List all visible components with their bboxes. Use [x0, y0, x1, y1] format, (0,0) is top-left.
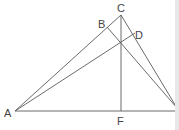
segment-ad	[15, 33, 135, 111]
label-c: C	[117, 2, 125, 14]
label-a: A	[4, 107, 12, 119]
label-f: F	[117, 115, 124, 127]
segment-ce	[121, 15, 177, 108]
label-d: D	[135, 29, 143, 41]
label-b: B	[98, 18, 105, 30]
triangle-diagram: C B D A F	[0, 0, 179, 130]
page-edge	[175, 0, 179, 130]
